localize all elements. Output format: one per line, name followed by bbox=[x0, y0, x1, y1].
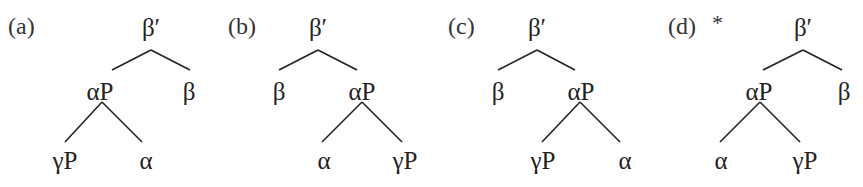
tree-d-edge bbox=[803, 50, 842, 70]
tree-a-edge bbox=[151, 50, 190, 70]
tree-c-root-node: β′ bbox=[528, 15, 546, 40]
tree-a-left-leaf: γP bbox=[53, 148, 78, 173]
tree-b-left-leaf: α bbox=[317, 148, 330, 173]
ungrammatical-asterisk: * bbox=[712, 12, 723, 34]
tree-b-edge bbox=[362, 102, 402, 142]
tree-d-left-leaf: α bbox=[714, 148, 727, 173]
tree-b-right-leaf: γP bbox=[393, 148, 418, 173]
tree-a-edge bbox=[102, 102, 142, 142]
tree-d-edge bbox=[760, 102, 800, 142]
tree-d-label: (d) bbox=[668, 14, 696, 38]
syntax-tree-figure: (a) β′ αP β γP α (b) β′ β αP α γP (c) β′… bbox=[0, 0, 863, 187]
tree-a-edge bbox=[112, 50, 151, 70]
tree-d-root-node: β′ bbox=[794, 15, 812, 40]
tree-c-edge bbox=[537, 50, 575, 70]
tree-a-right-leaf: α bbox=[139, 148, 152, 173]
tree-c-edge bbox=[580, 102, 620, 142]
tree-b-left-node: β bbox=[273, 79, 286, 104]
tree-d-edge bbox=[720, 102, 760, 142]
tree-c-left-node: β bbox=[492, 79, 505, 104]
tree-c-edge bbox=[498, 50, 537, 70]
tree-b-root-node: β′ bbox=[309, 15, 327, 40]
tree-b-label: (b) bbox=[228, 14, 256, 38]
tree-c-edge bbox=[542, 102, 580, 142]
tree-d-right-leaf: γP bbox=[793, 148, 818, 173]
tree-c-label: (c) bbox=[448, 14, 475, 38]
tree-a-right-node: β bbox=[183, 79, 196, 104]
tree-b-right-node: αP bbox=[348, 79, 375, 104]
tree-d-edge bbox=[763, 50, 803, 70]
tree-c-left-leaf: γP bbox=[531, 148, 556, 173]
tree-d-right-node: β bbox=[838, 79, 851, 104]
tree-a-root-node: β′ bbox=[142, 15, 160, 40]
tree-c-right-node: αP bbox=[567, 79, 594, 104]
tree-a-edge bbox=[65, 102, 102, 142]
tree-c-right-leaf: α bbox=[618, 148, 631, 173]
tree-b-edge bbox=[318, 50, 357, 70]
tree-d-left-node: αP bbox=[745, 79, 772, 104]
tree-edges bbox=[0, 0, 863, 187]
tree-b-edge bbox=[322, 102, 362, 142]
tree-b-edge bbox=[279, 50, 318, 70]
tree-a-left-node: αP bbox=[86, 79, 113, 104]
tree-a-label: (a) bbox=[8, 14, 35, 38]
